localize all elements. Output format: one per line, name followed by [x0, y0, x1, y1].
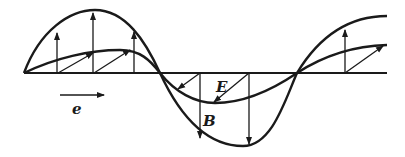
b-vectors [57, 13, 345, 144]
e-vector-arrow [178, 73, 200, 89]
direction-label: e [72, 100, 82, 118]
e-vector-arrow [94, 50, 130, 73]
b-field-label: B [202, 112, 216, 130]
em-wave-diagram: e E B [0, 0, 405, 157]
e-field-label: E [215, 78, 228, 96]
